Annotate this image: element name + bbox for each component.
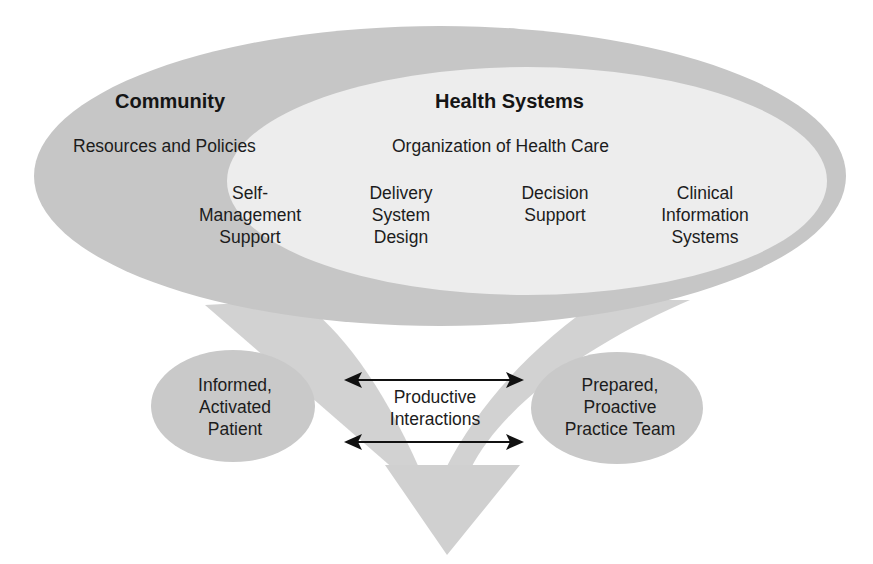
community-subtitle: Resources and Policies [73, 136, 256, 157]
health-systems-title: Health Systems [435, 90, 584, 113]
delivery-system-design-label: Delivery System Design [351, 182, 451, 248]
decision-support-label: Decision Support [500, 182, 610, 226]
community-title: Community [115, 90, 225, 113]
clinical-information-systems-label: Clinical Information Systems [640, 182, 770, 248]
productive-interactions-label: Productive Interactions [380, 386, 490, 430]
team-label: Prepared, Proactive Practice Team [545, 374, 695, 440]
self-management-support-label: Self- Management Support [190, 182, 310, 248]
health-systems-subtitle: Organization of Health Care [392, 136, 609, 157]
patient-label: Informed, Activated Patient [180, 374, 290, 440]
diagram-canvas [0, 0, 873, 564]
